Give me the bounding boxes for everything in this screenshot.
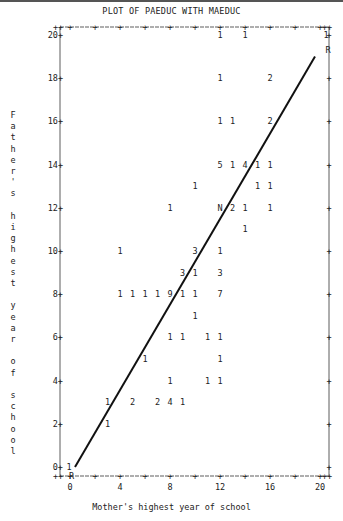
- right-tick-mark: +: [326, 246, 331, 256]
- bottom-tick-mark: +: [217, 471, 222, 481]
- x-tick-label: 4: [117, 482, 122, 492]
- data-point: 1: [167, 376, 172, 386]
- data-point: 1: [142, 289, 147, 299]
- data-point: 1: [217, 376, 222, 386]
- top-tick-mark: +: [117, 22, 122, 32]
- bottom-tick-mark: +: [267, 471, 272, 481]
- bottom-tick-mark: +: [142, 471, 147, 481]
- bottom-tick-mark: +: [292, 471, 297, 481]
- data-point: 1: [130, 289, 135, 299]
- bottom-tick-mark: +: [117, 471, 122, 481]
- y-tick-label: 8+: [53, 289, 63, 299]
- right-tick-mark: +: [326, 332, 331, 342]
- data-point: 1: [205, 376, 210, 386]
- y-tick-label: 4+: [53, 376, 63, 386]
- bottom-tick-mark: +: [242, 471, 247, 481]
- data-point: 3: [192, 246, 197, 256]
- data-point: 1: [155, 289, 160, 299]
- data-point: 1: [242, 203, 247, 213]
- data-point: 1: [217, 354, 222, 364]
- y-tick-label: 10+: [48, 246, 63, 256]
- data-point: 5: [217, 160, 222, 170]
- data-point: 1: [117, 289, 122, 299]
- data-point: 9: [167, 289, 172, 299]
- bottom-tick-mark: +: [92, 471, 97, 481]
- data-point: 1: [242, 30, 247, 40]
- x-tick-label: 8: [167, 482, 172, 492]
- regression-endpoint-marker: R: [69, 471, 75, 481]
- data-point: 1: [217, 30, 222, 40]
- data-point: 2: [267, 116, 272, 126]
- data-point: 1: [230, 116, 235, 126]
- corner-mark: ++: [322, 471, 332, 481]
- top-tick-mark: +: [67, 22, 72, 32]
- data-point: 1: [192, 289, 197, 299]
- data-point: 1: [323, 30, 328, 40]
- data-point: 1: [217, 246, 222, 256]
- top-tick-mark: +: [142, 22, 147, 32]
- data-point: 1: [180, 397, 185, 407]
- data-point: 1: [192, 181, 197, 191]
- data-point: 1: [242, 224, 247, 234]
- plot-area: ++++++++++++++++++++++0481216200++2++4++…: [0, 0, 343, 521]
- data-point: 1: [105, 419, 110, 429]
- top-tick-mark: +: [167, 22, 172, 32]
- data-point: 2: [155, 397, 160, 407]
- right-tick-mark: +: [326, 419, 331, 429]
- top-tick-mark: +: [92, 22, 97, 32]
- bottom-tick-mark: +: [192, 471, 197, 481]
- y-tick-label: 18+: [48, 73, 63, 83]
- right-tick-mark: +: [326, 289, 331, 299]
- data-point: 1: [142, 354, 147, 364]
- data-point: 1: [267, 160, 272, 170]
- data-point: 4: [167, 397, 172, 407]
- data-point: 1: [167, 203, 172, 213]
- y-tick-label: 2+: [53, 419, 63, 429]
- x-tick-label: 12: [215, 482, 225, 492]
- data-point: 7: [217, 289, 222, 299]
- corner-mark: ++: [53, 22, 63, 32]
- right-tick-mark: +: [326, 73, 331, 83]
- data-point: 3: [217, 268, 222, 278]
- corner-mark: ++: [53, 471, 63, 481]
- data-point: 2: [130, 397, 135, 407]
- data-point: 1: [217, 116, 222, 126]
- data-point: 1: [192, 311, 197, 321]
- y-tick-label: 12+: [48, 203, 63, 213]
- y-tick-label: 16+: [48, 116, 63, 126]
- top-tick-mark: +: [267, 22, 272, 32]
- bottom-tick-mark: +: [167, 471, 172, 481]
- data-point: 1: [267, 203, 272, 213]
- data-point: 1: [117, 246, 122, 256]
- x-tick-label: 0: [67, 482, 72, 492]
- data-point: 1: [267, 181, 272, 191]
- data-point: 1: [217, 73, 222, 83]
- data-point: 2: [267, 73, 272, 83]
- data-point: 1: [180, 289, 185, 299]
- x-tick-label: 16: [265, 482, 275, 492]
- right-tick-mark: +: [326, 116, 331, 126]
- data-point: 1: [217, 332, 222, 342]
- data-point: 1: [205, 332, 210, 342]
- data-point: N: [217, 203, 222, 213]
- top-tick-mark: +: [292, 22, 297, 32]
- right-tick-mark: +: [326, 203, 331, 213]
- data-point: 2: [230, 203, 235, 213]
- data-point: 4: [242, 160, 247, 170]
- y-tick-label: 6+: [53, 332, 63, 342]
- data-point: 1: [230, 160, 235, 170]
- y-tick-label: 14+: [48, 160, 63, 170]
- data-point: 1: [255, 181, 260, 191]
- right-tick-mark: +: [326, 160, 331, 170]
- data-point: 1: [167, 332, 172, 342]
- data-point: 1: [180, 332, 185, 342]
- right-tick-mark: +: [326, 376, 331, 386]
- data-point: 1: [192, 268, 197, 278]
- top-tick-mark: +: [192, 22, 197, 32]
- x-tick-label: 20: [315, 482, 325, 492]
- data-point: 1: [105, 397, 110, 407]
- regression-line: [75, 57, 315, 467]
- data-point: 3: [180, 268, 185, 278]
- data-point: 1: [66, 462, 71, 472]
- data-point: 1: [255, 160, 260, 170]
